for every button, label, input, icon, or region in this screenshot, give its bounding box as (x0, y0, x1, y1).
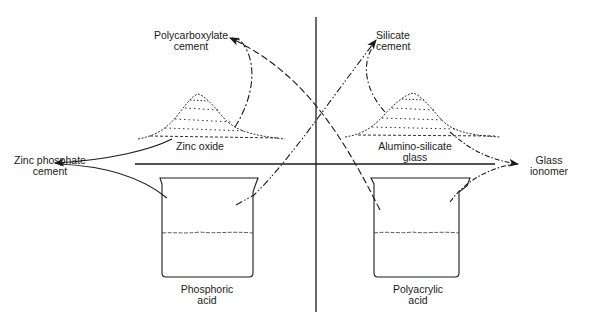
label-polyacrylic-acid: Polyacrylic acid (379, 284, 457, 306)
phosphoric-acid-beaker (160, 178, 258, 277)
label-zinc-oxide: Zinc oxide (170, 141, 230, 152)
label-silicate-cement: Silicate cement (376, 30, 410, 52)
polyacrylic-acid-beaker (371, 178, 470, 277)
diagram-canvas: Polycarboxylate cement Silicate cement Z… (0, 0, 601, 324)
label-zinc-phosphate-cement: Zinc phosphate cement (0, 155, 100, 177)
arrow-alumino-silicate-to-silicate (366, 48, 385, 112)
alumino-silicate-powder-pile (345, 93, 500, 137)
zinc-oxide-powder-pile (138, 94, 285, 139)
label-polycarboxylate-cement: Polycarboxylate cement (146, 30, 236, 52)
label-alumino-silicate-glass: Alumino-silicate glass (375, 141, 455, 163)
label-glass-ionomer: Glass ionomer (526, 155, 572, 177)
arrow-polyacrylic-acid-to-glass-ionomer (450, 164, 516, 202)
arrow-alumino-silicate-to-glass-ionomer (450, 132, 518, 164)
label-phosphoric-acid: Phosphoric acid (168, 284, 246, 306)
